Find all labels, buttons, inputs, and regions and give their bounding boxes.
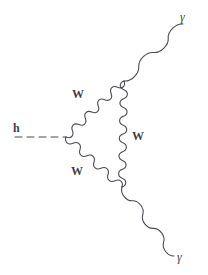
w-boson-label-vertical: W (132, 130, 144, 142)
photon-upper (124, 24, 183, 81)
w-boson-label-lower-left: W (71, 165, 83, 177)
photon-label-lower: γ (177, 251, 182, 263)
w-vertical (119, 81, 128, 187)
feynman-diagram-canvas (0, 0, 208, 275)
feynman-diagram: h W W W γ γ (0, 0, 208, 275)
photon-lower (122, 187, 174, 256)
photon-label-upper: γ (180, 11, 185, 23)
w-lower-left (66, 137, 123, 187)
w-boson-label-upper-left: W (72, 88, 84, 100)
higgs-label: h (13, 122, 20, 134)
propagator-group (15, 24, 183, 256)
